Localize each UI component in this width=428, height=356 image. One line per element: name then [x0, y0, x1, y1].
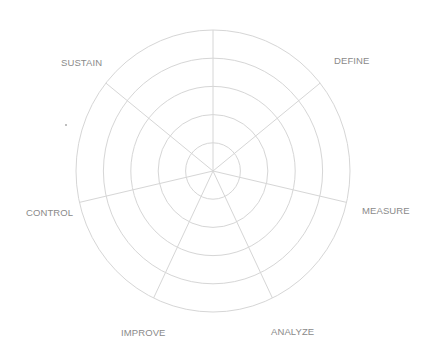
- speck-artifact: [65, 124, 67, 126]
- grid-spoke: [213, 171, 272, 298]
- grid-spokes: [79, 30, 346, 298]
- axis-label-improve: IMPROVE: [121, 328, 166, 338]
- axis-label-define: DEFINE: [334, 56, 369, 66]
- grid-spoke: [79, 171, 213, 202]
- polar-grid: [0, 0, 428, 356]
- grid-spoke: [213, 171, 347, 202]
- axis-label-sustain: SUSTAIN: [61, 58, 102, 68]
- axis-label-measure: MEASURE: [362, 206, 410, 216]
- grid-spoke: [154, 171, 213, 298]
- axis-label-control: CONTROL: [26, 208, 73, 218]
- axis-label-analyze: ANALYZE: [271, 327, 314, 337]
